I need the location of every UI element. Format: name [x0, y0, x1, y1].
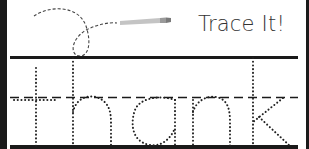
pencil-icon — [120, 18, 171, 26]
dotted-word-thank — [14, 58, 290, 146]
dashed-swirl-path-icon — [34, 9, 117, 56]
top-guide-line — [10, 56, 298, 59]
trace-worksheet: Trace It! — [0, 0, 309, 149]
tracing-area — [0, 0, 309, 149]
